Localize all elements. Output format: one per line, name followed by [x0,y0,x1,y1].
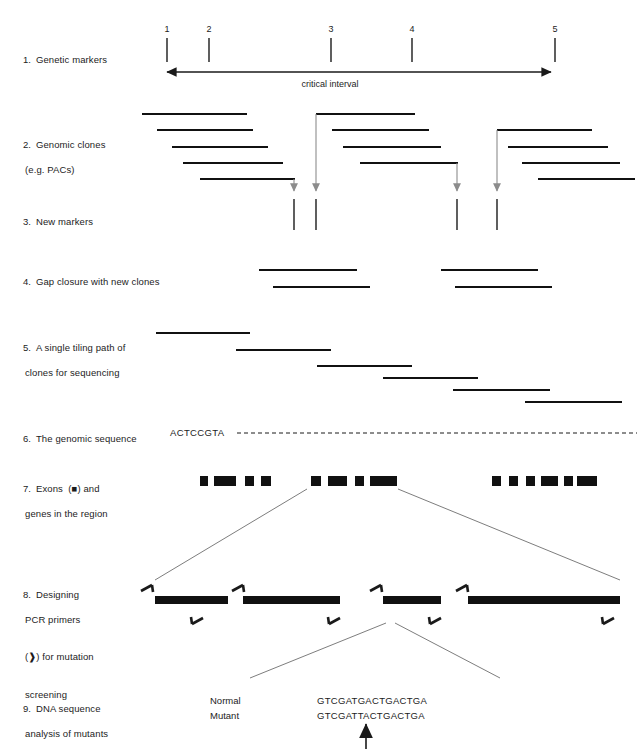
exon-block-group_3-3 [541,476,558,486]
row-text-5: A single tiling path of [36,342,125,353]
exon-block-group_3-1 [509,476,518,486]
row-number-4: 4. [23,276,36,289]
exon-block-group_1-3 [261,476,271,486]
pcr-reverse-primer-1 [328,617,340,624]
row-text-9: DNA sequence [36,703,101,714]
row-text-7: Exons (■) and [36,483,100,494]
exon-block-group_2-3 [370,476,397,486]
reverse-primer-barb-3 [602,617,603,624]
row-text-9b: analysis of mutants [12,728,108,741]
exons-group [200,476,597,486]
row-label-7: 7.Exons (■) and genes in the region [12,470,108,545]
exon-block-group_1-2 [245,476,254,486]
expansion-line-top-1 [398,489,620,580]
row-number-6: 6. [23,433,36,446]
row-text-8c: (❱) for mutation [12,651,94,664]
forward-primer-barb-3 [467,585,468,592]
forward-primer-barb-0 [152,585,153,592]
row-number-3: 3. [23,216,36,229]
row-number-7: 7. [23,483,36,496]
row-text-7b: genes in the region [12,508,108,521]
marker-number-3: 3 [328,24,333,34]
marker-number-5: 5 [552,24,557,34]
row-label-1: 1.Genetic markers [12,41,107,79]
exon-block-group_3-2 [526,476,535,486]
row-text-2: Genomic clones [36,139,106,150]
forward-primer-shaft-0 [141,585,152,591]
expansion-lines-bottom [250,623,500,678]
row-label-4: 4.Gap closure with new clones [12,263,160,301]
forward-primer-shaft-2 [370,585,381,591]
exon-block-group_2-2 [355,476,364,486]
new-markers-group [294,114,497,230]
pcr-amplicon-bar-0 [155,596,228,604]
gap-closure-group [259,270,552,287]
expansion-line-bottom-1 [395,623,500,678]
marker-number-2: 2 [206,24,211,34]
pcr-forward-primer-1 [232,585,244,592]
pcr-forward-primer-3 [456,585,468,592]
row-label-5: 5.A single tiling path of clones for seq… [12,329,125,404]
pcr-reverse-primer-3 [602,617,614,624]
dna-sequence-mutant: GTCGATTACTGACTGA [317,710,425,721]
row-number-1: 1. [23,54,36,67]
row-text-1: Genetic markers [36,54,107,65]
row-number-5: 5. [23,342,36,355]
pcr-amplicon-bar-3 [468,596,620,604]
row-number-9: 9. [23,703,36,716]
genetic-markers-group [167,38,555,72]
exon-block-group_3-5 [577,476,597,486]
expansion-lines-top [155,489,620,580]
row-label-3: 3.New markers [12,203,93,241]
forward-primer-barb-2 [381,585,382,592]
exon-block-group_2-0 [311,476,321,486]
exon-block-group_3-0 [492,476,501,486]
reverse-primer-shaft-2 [430,618,441,624]
row-number-2: 2. [23,139,36,152]
dna-row-label-mutant: Mutant [210,710,239,721]
exon-block-group_1-1 [214,476,236,486]
reverse-primer-barb-2 [429,617,430,624]
reverse-primer-barb-0 [191,617,192,624]
expansion-line-top-0 [155,489,307,580]
exon-block-group_3-4 [564,476,573,486]
forward-primer-shaft-1 [232,585,243,591]
marker-number-1: 1 [164,24,169,34]
forward-primer-shaft-3 [456,585,467,591]
exon-block-group_1-0 [200,476,208,486]
pcr-primers-group [141,585,620,624]
pcr-reverse-primer-0 [191,617,203,624]
reverse-primer-barb-1 [328,617,329,624]
row-text-2b: (e.g. PACs) [12,164,105,177]
genomic-sequence-text: ACTCCGTA [170,427,224,438]
reverse-primer-shaft-3 [603,618,614,624]
row-text-3: New markers [36,216,93,227]
exon-block-group_2-1 [328,476,347,486]
row-text-8b: PCR primers [12,614,94,627]
row-text-4: Gap closure with new clones [36,276,160,287]
row-text-5b: clones for sequencing [12,367,125,380]
row-label-6: 6.The genomic sequence [12,420,137,458]
figure-canvas: 1.Genetic markers 2.Genomic clones (e.g.… [0,0,638,749]
expansion-line-bottom-0 [250,623,386,678]
pcr-forward-primer-0 [141,585,153,592]
dna-row-label-normal: Normal [210,695,241,706]
reverse-primer-shaft-0 [192,618,203,624]
tiling-path-group [156,333,622,402]
row-text-6: The genomic sequence [36,433,137,444]
critical-interval-label: critical interval [301,79,358,89]
pcr-reverse-primer-2 [429,617,441,624]
row-label-2: 2.Genomic clones (e.g. PACs) [12,126,105,201]
row-text-8: Designing [36,589,79,600]
pcr-amplicon-bar-1 [243,596,340,604]
marker-number-4: 4 [409,24,414,34]
dna-sequence-normal: GTCGATGACTGACTGA [317,695,427,706]
reverse-primer-shaft-1 [329,618,340,624]
forward-primer-barb-1 [243,585,244,592]
pcr-amplicon-bar-2 [383,596,441,604]
row-number-8: 8. [23,589,36,602]
pcr-forward-primer-2 [370,585,382,592]
genomic-clones-group [142,114,635,179]
row-label-9: 9.DNA sequence analysis of mutants [12,690,108,749]
